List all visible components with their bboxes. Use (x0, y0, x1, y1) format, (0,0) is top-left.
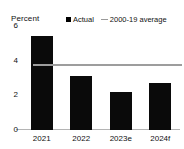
y-tick-label-6: 6 (14, 22, 18, 30)
legend-entry-average: 2000-19 average (101, 15, 167, 24)
bar-2023e (110, 92, 132, 130)
x-tick-label-2024f: 2024f (150, 134, 170, 143)
bar-chart: Percent Actual 2000-19 average 024620212… (0, 0, 184, 149)
bar-group (70, 26, 92, 130)
x-tick-label-2022: 2022 (72, 134, 90, 143)
y-tick-label-4: 4 (14, 57, 18, 65)
x-tick-label-2021: 2021 (33, 134, 51, 143)
plot-area: 0246202120222023e2024f (22, 26, 180, 130)
bar-group (149, 26, 171, 130)
bar-2024f (149, 83, 171, 130)
bar-group (110, 26, 132, 130)
chart-legend: Actual 2000-19 average (66, 15, 167, 24)
bar-2022 (70, 76, 92, 130)
square-swatch-icon (66, 17, 71, 22)
line-swatch-icon (101, 19, 108, 21)
bar-2021 (31, 36, 53, 130)
legend-label-actual: Actual (73, 15, 94, 24)
y-tick-label-0: 0 (14, 126, 18, 134)
average-reference-line (33, 64, 182, 66)
y-tick-label-2: 2 (14, 91, 18, 99)
x-tick-label-2023e: 2023e (110, 134, 132, 143)
legend-entry-actual: Actual (66, 15, 94, 24)
legend-label-average: 2000-19 average (110, 15, 167, 24)
bar-group (31, 26, 53, 130)
bars-layer (22, 26, 180, 130)
